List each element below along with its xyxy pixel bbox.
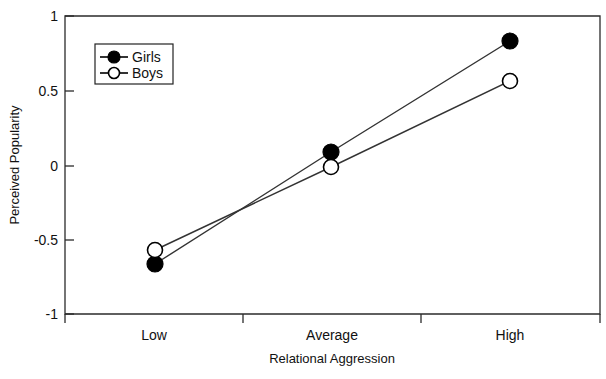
data-point-girls-low [147, 256, 163, 272]
y-tick-label-0: 0 [50, 158, 58, 174]
data-point-boys-average [324, 160, 339, 175]
x-tick-label-average: Average [306, 327, 358, 343]
y-axis-tick-labels: 1 0.5 0 -0.5 -1 [34, 8, 58, 322]
legend-marker-boys-open-circle-icon [109, 68, 120, 79]
data-point-girls-average [323, 144, 339, 160]
legend-label-boys: Boys [132, 65, 163, 81]
x-tick-label-low: Low [141, 327, 168, 343]
x-axis-ticks [65, 314, 600, 323]
y-tick-label-1: 1 [50, 8, 58, 24]
chart-figure: 1 0.5 0 -0.5 -1 Perceived Popularity Low… [0, 0, 606, 379]
x-axis-tick-labels: Low Average High [141, 327, 524, 343]
y-axis-title: Perceived Popularity [7, 105, 22, 225]
data-point-girls-high [502, 33, 518, 49]
series-girls [147, 33, 518, 272]
y-tick-label-neg1: -1 [46, 306, 59, 322]
chart-legend: Girls Boys [95, 44, 173, 84]
series-boys [148, 74, 518, 258]
data-point-boys-low [148, 243, 163, 258]
line-chart: 1 0.5 0 -0.5 -1 Perceived Popularity Low… [0, 0, 606, 379]
legend-marker-girls-filled-circle-icon [108, 51, 120, 63]
legend-label-girls: Girls [132, 49, 161, 65]
x-axis-title: Relational Aggression [269, 351, 395, 366]
y-axis-ticks [65, 16, 74, 314]
y-tick-label-neg0_5: -0.5 [34, 232, 58, 248]
x-tick-label-high: High [496, 327, 525, 343]
data-point-boys-high [503, 74, 518, 89]
y-tick-label-0_5: 0.5 [39, 83, 59, 99]
y-axis-title-group: Perceived Popularity [7, 105, 22, 225]
